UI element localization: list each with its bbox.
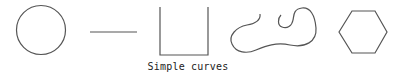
figure-caption: Simple curves — [0, 61, 376, 72]
circle-shape — [17, 6, 66, 55]
hexagon-shape — [339, 11, 387, 53]
free-curve-shape — [231, 8, 316, 52]
open-rectangle-shape — [160, 7, 208, 55]
